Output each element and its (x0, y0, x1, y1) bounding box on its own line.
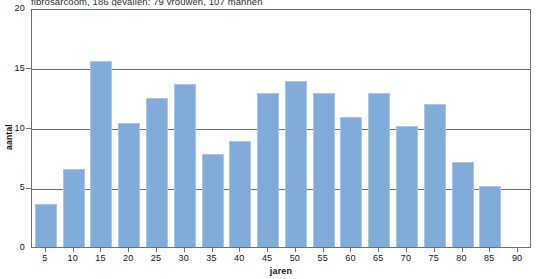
bar (202, 154, 224, 247)
bar (229, 141, 251, 247)
x-axis-tick-mark (128, 248, 129, 252)
x-axis-tick-label: 40 (224, 253, 254, 263)
x-axis-tick-mark (323, 248, 324, 252)
x-axis-tick-mark (156, 248, 157, 252)
bar (118, 123, 140, 247)
x-axis-tick-label: 35 (197, 253, 227, 263)
x-axis-tick-label: 55 (308, 253, 338, 263)
x-axis-tick-label: 10 (58, 253, 88, 263)
x-axis-tick-label: 60 (335, 253, 365, 263)
bar (368, 93, 390, 247)
bar (313, 93, 335, 247)
y-axis-tick-mark (26, 68, 31, 69)
x-axis-tick-mark (45, 248, 46, 252)
x-axis-tick-mark (378, 248, 379, 252)
bar (146, 98, 168, 247)
x-axis-tick-label: 25 (141, 253, 171, 263)
x-axis-tick-mark (295, 248, 296, 252)
x-axis-tick-mark (239, 248, 240, 252)
x-axis-tick-mark (212, 248, 213, 252)
bar (257, 93, 279, 247)
x-axis-tick-mark (406, 248, 407, 252)
x-axis-tick-label: 45 (252, 253, 282, 263)
y-axis-tick-mark (26, 128, 31, 129)
y-axis-tick-label: 5 (2, 182, 25, 192)
x-axis-label: jaren (31, 266, 531, 276)
bar (452, 162, 474, 247)
x-axis-tick-mark (517, 248, 518, 252)
x-axis-tick-mark (73, 248, 74, 252)
plot-area (31, 9, 531, 248)
x-axis-tick-mark (462, 248, 463, 252)
x-axis-tick-label: 80 (447, 253, 477, 263)
bar (340, 117, 362, 247)
bar (174, 84, 196, 247)
x-axis-tick-mark (434, 248, 435, 252)
x-axis-tick-label: 15 (85, 253, 115, 263)
bar (424, 104, 446, 247)
x-axis-tick-mark (489, 248, 490, 252)
chart-caption: fibrosarcoom, 186 gevallen: 79 vrouwen, … (31, 0, 263, 6)
y-axis-tick-label: 20 (2, 3, 25, 13)
x-axis-tick-label: 65 (363, 253, 393, 263)
x-axis-tick-mark (267, 248, 268, 252)
x-axis-tick-label: 20 (113, 253, 143, 263)
x-axis-tick-mark (100, 248, 101, 252)
x-axis-tick-mark (350, 248, 351, 252)
y-axis-tick-label: 15 (2, 63, 25, 73)
x-axis-tick-label: 30 (169, 253, 199, 263)
x-axis-tick-label: 90 (502, 253, 532, 263)
y-axis-tick-mark (26, 188, 31, 189)
x-axis-tick-label: 70 (391, 253, 421, 263)
bar (396, 126, 418, 247)
bar (479, 186, 501, 247)
y-axis-label: aantal (4, 114, 14, 160)
y-axis-tick-label: 0 (2, 242, 25, 252)
chart-figure: fibrosarcoom, 186 gevallen: 79 vrouwen, … (0, 0, 537, 279)
x-axis-tick-label: 5 (30, 253, 60, 263)
bar (285, 81, 307, 247)
y-axis-tick-label: 10 (2, 123, 25, 133)
x-axis-tick-label: 75 (419, 253, 449, 263)
x-axis-tick-label: 85 (474, 253, 504, 263)
bar (90, 61, 112, 247)
bar (63, 169, 85, 247)
x-axis-tick-mark (184, 248, 185, 252)
x-axis-tick-label: 50 (280, 253, 310, 263)
bar (35, 204, 57, 247)
